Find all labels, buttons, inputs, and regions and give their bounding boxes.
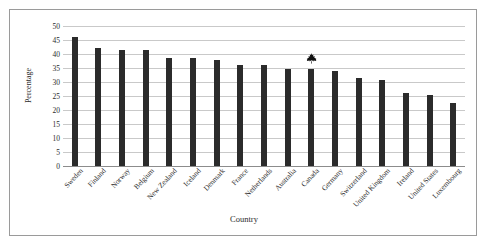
bar <box>95 48 101 166</box>
bar <box>143 50 149 166</box>
bar <box>356 78 362 166</box>
bar <box>427 95 433 166</box>
x-axis-tick-label: Denmark <box>202 167 226 192</box>
x-axis-tick-label: Iceland <box>182 167 202 188</box>
bar <box>237 65 243 166</box>
y-axis-tick-label: 0 <box>20 163 60 171</box>
bar <box>166 58 172 166</box>
x-axis-tick-label: Norway <box>110 167 132 189</box>
bar <box>332 71 338 166</box>
y-axis-tick-label: 20 <box>20 107 60 115</box>
bar <box>119 50 125 166</box>
x-axis-title: Country <box>10 214 478 224</box>
y-axis-tick-label: 30 <box>20 79 60 87</box>
x-axis-tick-label: Finland <box>87 167 108 189</box>
bar <box>379 80 385 166</box>
chart-frame: Percentage 05101520253035404550 SwedenFi… <box>9 9 477 236</box>
y-axis-tick-label: 40 <box>20 51 60 59</box>
bar <box>308 69 314 166</box>
bar <box>72 37 78 166</box>
y-axis-tick-label: 50 <box>20 23 60 31</box>
gridline <box>63 26 465 27</box>
y-axis-tick-label: 25 <box>20 93 60 101</box>
bar <box>261 65 267 166</box>
x-axis-tick-label: Canada <box>300 167 321 188</box>
y-axis-tick-label: 45 <box>20 37 60 45</box>
plot-area: 05101520253035404550 <box>63 26 465 166</box>
y-axis-tick-label: 15 <box>20 121 60 129</box>
y-axis-tick-label: 10 <box>20 135 60 143</box>
bar <box>190 58 196 166</box>
bar <box>285 69 291 166</box>
x-axis-tick-label: Ireland <box>396 167 416 187</box>
y-axis-tick-label: 5 <box>20 149 60 157</box>
x-axis-tick-label: France <box>231 167 250 187</box>
x-axis-tick-label: Australia <box>273 167 297 192</box>
y-axis-tick-label: 35 <box>20 65 60 73</box>
bar <box>450 103 456 166</box>
bar <box>403 93 409 166</box>
maple-leaf-icon <box>304 52 318 66</box>
gridline <box>63 40 465 41</box>
x-axis-tick-label: Sweden <box>63 167 84 189</box>
bar <box>214 60 220 166</box>
